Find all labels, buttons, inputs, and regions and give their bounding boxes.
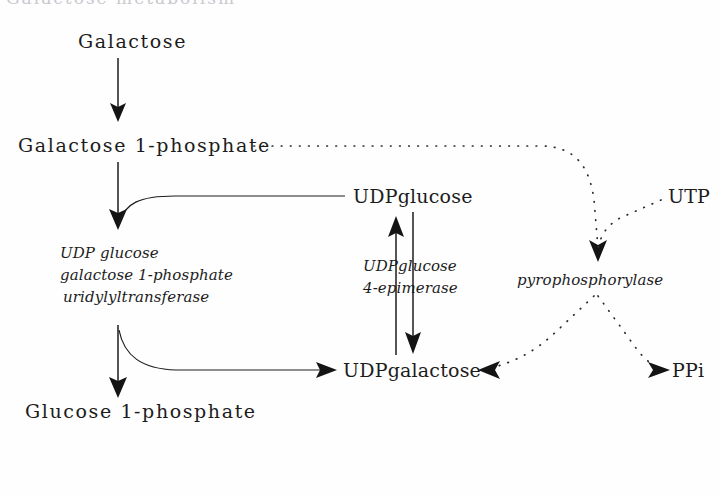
arrow-transferase-to-udpgalactose [119, 330, 337, 378]
arrow-pyrophosphorylase-to-ppi [598, 296, 670, 378]
arrow-galactose-to-gal1p [110, 58, 126, 122]
arrow-transferase-to-glucose1p [109, 325, 127, 398]
label-udpglucose: UDPglucose [353, 185, 473, 207]
label-udpgalactose: UDPgalactose [343, 359, 481, 381]
label-glucose-1-phosphate: Glucose 1-phosphate [25, 400, 257, 422]
label-galactose-1-phosphate: Galactose 1-phosphate [18, 134, 271, 156]
label-utp: UTP [668, 185, 710, 207]
pathway-canvas: Galactose Galactose 1-phosphate Glucose … [0, 0, 721, 495]
label-epimerase-line2: 4-epimerase [362, 279, 458, 297]
label-ppi: PPi [672, 359, 704, 381]
label-galactose: Galactose [78, 30, 187, 52]
label-epimerase-line1: UDPglucose [363, 257, 457, 275]
curve-udpglucose-inlet [119, 196, 345, 224]
label-pyrophosphorylase: pyrophosphorylase [517, 271, 663, 289]
label-transferase-line1: UDP glucose [60, 244, 159, 262]
pathway-diagram: Galactose metabolism [0, 0, 721, 495]
arrow-pyrophosphorylase-to-udpgalactose [478, 296, 594, 379]
arrow-gal1p-to-transferase [109, 162, 127, 230]
arrow-utp-to-pyrophosphorylase [598, 200, 661, 250]
label-transferase-line3: uridylyltransferase [63, 288, 209, 306]
label-transferase-line2: galactose 1-phosphate [60, 266, 233, 284]
